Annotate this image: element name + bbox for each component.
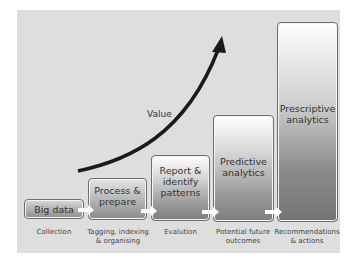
stage-box-label: identify	[160, 176, 202, 187]
stage-caption-collection: Collection	[24, 228, 84, 237]
value-label: Value	[147, 109, 172, 119]
caption-line: Potential future	[208, 228, 278, 237]
caption-line: Evalution	[151, 228, 210, 237]
caption-line: & actions	[270, 237, 344, 246]
connector-arrow-icon	[265, 210, 277, 214]
stage-box-big-data: Big data	[24, 199, 84, 219]
connector-arrow-icon	[141, 209, 152, 213]
stage-box-label: analytics	[220, 167, 267, 178]
caption-line: outcomes	[208, 237, 278, 246]
stage-box-label: prepare	[94, 196, 140, 207]
stage-box-label: patterns	[160, 187, 202, 198]
caption-line: & organising	[82, 237, 154, 246]
stage-box-process-prepare: Process &prepare	[88, 178, 147, 220]
stage-box-label: Prescriptive	[280, 103, 336, 114]
caption-line: Recommendations	[270, 228, 344, 237]
stage-box-label: Process &	[94, 185, 140, 196]
stage-box-prescriptive: Prescriptiveanalytics	[277, 22, 338, 222]
stage-caption-potential: Potential future outcomes	[208, 228, 278, 246]
stage-caption-evalution: Evalution	[151, 228, 210, 237]
stage-caption-tagging: Tagging, indexing & organising	[82, 228, 154, 246]
connector-arrow-icon	[202, 210, 214, 214]
connector-arrow-icon	[78, 208, 89, 212]
caption-line: Collection	[24, 228, 84, 237]
stage-box-label: analytics	[280, 114, 336, 125]
stage-box-label: Big data	[34, 204, 74, 215]
stage-box-label: Report &	[160, 165, 202, 176]
stage-caption-recommendations: Recommendations & actions	[270, 228, 344, 246]
stage-box-label: Predictive	[220, 156, 267, 167]
caption-line: Tagging, indexing	[82, 228, 154, 237]
stage-box-predictive: Predictiveanalytics	[213, 115, 274, 222]
